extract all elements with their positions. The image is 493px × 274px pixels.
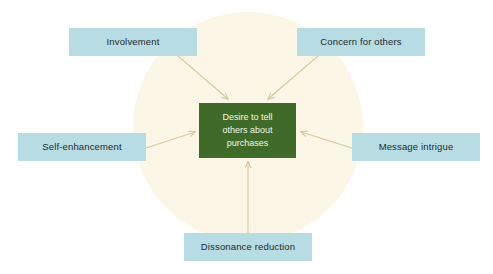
factor-node-message-intrigue[interactable]: Message intrigue	[352, 133, 480, 161]
factor-label-concern-for-others: Concern for others	[320, 36, 401, 48]
factor-node-dissonance-reduction[interactable]: Dissonance reduction	[184, 233, 312, 261]
factor-label-self-enhancement: Self-enhancement	[42, 141, 122, 153]
center-node-desire-to-tell-others[interactable]: Desire to tell others about purchases	[199, 103, 296, 158]
factor-label-message-intrigue: Message intrigue	[379, 141, 454, 153]
arrow-self-enhancement-to-center	[146, 132, 195, 148]
factor-node-self-enhancement[interactable]: Self-enhancement	[18, 133, 146, 161]
factor-label-dissonance-reduction: Dissonance reduction	[201, 241, 295, 253]
factor-label-involvement: Involvement	[107, 36, 160, 48]
influence-diagram: Involvement Concern for others Self-enha…	[0, 0, 493, 274]
center-node-line-3: purchases	[222, 137, 272, 150]
center-node-text: Desire to tell others about purchases	[222, 111, 272, 150]
center-node-line-2: others about	[222, 124, 272, 137]
factor-node-concern-for-others[interactable]: Concern for others	[297, 28, 425, 56]
factor-node-involvement[interactable]: Involvement	[69, 28, 197, 56]
arrow-message-intrigue-to-center	[301, 132, 352, 148]
center-node-line-1: Desire to tell	[222, 111, 272, 124]
arrow-concern-to-center	[268, 56, 318, 99]
arrow-involvement-to-center	[178, 56, 228, 99]
